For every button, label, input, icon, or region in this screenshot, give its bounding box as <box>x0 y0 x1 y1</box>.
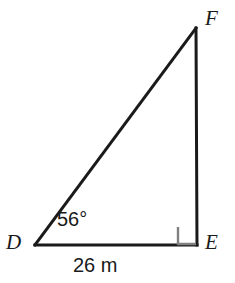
vertex-label-f: F <box>205 8 218 29</box>
vertex-label-e: E <box>205 232 218 253</box>
right-angle-marker-icon <box>178 227 196 244</box>
angle-label-d: 56° <box>57 209 87 229</box>
side-length-label-de: 26 m <box>73 255 117 275</box>
geometry-figure: D E F 56° 26 m <box>0 0 235 283</box>
side-ef-line <box>196 28 197 245</box>
triangle-def-drawing <box>0 0 235 283</box>
vertex-label-d: D <box>6 232 21 253</box>
